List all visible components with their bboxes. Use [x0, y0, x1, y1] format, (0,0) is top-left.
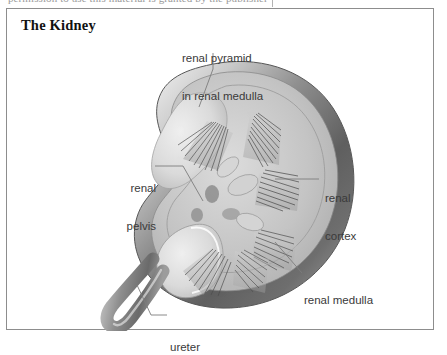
label-renal-medulla-line1: renal medulla: [304, 294, 373, 307]
figure-frame: The Kidney: [6, 8, 434, 330]
label-renal-cortex: renal cortex: [325, 167, 356, 267]
cut-off-header-row: permission to use this material is grant…: [0, 0, 447, 7]
cut-off-header-text: permission to use this material is grant…: [8, 0, 268, 4]
label-renal-medulla: renal medulla: [304, 269, 373, 332]
label-renal-pyramid-line1: renal pyramid: [182, 52, 263, 65]
label-renal-pyramid: renal pyramid in renal medulla: [182, 27, 263, 127]
label-ureter-line1: ureter: [170, 341, 200, 354]
label-renal-cortex-line2: cortex: [325, 230, 356, 243]
label-renal-pyramid-line2: in renal medulla: [182, 90, 263, 103]
label-renal-pelvis-line1: renal: [104, 182, 156, 195]
sinus-cavity-b: [191, 208, 203, 222]
label-renal-pelvis-line2: pelvis: [104, 220, 156, 233]
sinus-cavity-a: [205, 185, 219, 203]
label-renal-cortex-line1: renal: [325, 192, 356, 205]
cut-off-header-tick: [272, 0, 273, 7]
label-renal-pelvis: renal pelvis: [104, 157, 156, 257]
label-ureter: ureter: [170, 316, 200, 355]
